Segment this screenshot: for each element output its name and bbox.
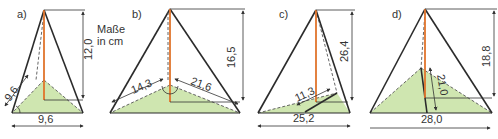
figure-label-a: a) <box>17 8 27 20</box>
pyramid-d: d) 28,0 21,0 18,8 <box>370 8 497 128</box>
dim-height-b: 16,5 <box>225 47 237 68</box>
pyramid-b: b) 14,3 21,6 16,5 <box>110 8 245 113</box>
dim-base-d: 28,0 <box>421 113 442 125</box>
pyramid-a: a) 9,6 12,0 9,6 <box>2 8 94 126</box>
dim-base-c: 25,2 <box>293 112 314 124</box>
dim-height-c: 26,4 <box>338 41 350 62</box>
dim-height-a: 12,0 <box>82 39 94 60</box>
dim-left-b: 14,3 <box>129 76 153 95</box>
pyramid-c: c) 25,2 11,3 26,4 <box>258 8 355 126</box>
dim-height-d: 18,8 <box>480 46 492 67</box>
figure-label-c: c) <box>279 8 288 20</box>
dim-base-a: 9,6 <box>38 113 53 125</box>
units-note-line2: in cm <box>97 35 123 47</box>
dim-right-b: 21,6 <box>189 75 213 94</box>
figure-label-d: d) <box>392 8 402 20</box>
dim-side-a: 9,6 <box>2 84 21 103</box>
pyramids-diagram: a) 9,6 12,0 9,6 Maße in cm b) 14,3 21,6 … <box>0 0 498 139</box>
figure-label-b: b) <box>132 8 142 20</box>
units-note-line1: Maße <box>97 23 125 35</box>
